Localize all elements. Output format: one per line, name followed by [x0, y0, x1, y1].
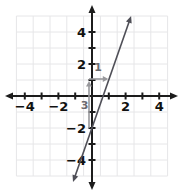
rise-label: 3 [81, 99, 89, 112]
y-axis-top-arrowhead-icon [89, 5, 96, 13]
x-tick-label: −4 [15, 99, 35, 114]
graph-figure: −4−22442−2−431 [0, 0, 183, 196]
run-label: 1 [94, 61, 102, 74]
x-tick-label: 4 [155, 99, 164, 114]
x-axis-left-arrowhead-icon [5, 93, 13, 100]
coordinate-plane: −4−22442−2−431 [0, 0, 183, 196]
run-arrowhead-icon [103, 76, 109, 82]
y-tick-label: −2 [66, 121, 86, 136]
x-axis-right-arrowhead-icon [170, 93, 178, 100]
y-tick-label: 2 [77, 57, 86, 72]
graph-line-upper-arrowhead-icon [126, 16, 132, 24]
y-tick-label: 4 [77, 25, 86, 40]
x-tick-label: −2 [48, 99, 68, 114]
x-tick-label: 2 [121, 99, 130, 114]
y-axis-bottom-arrowhead-icon [89, 182, 96, 190]
